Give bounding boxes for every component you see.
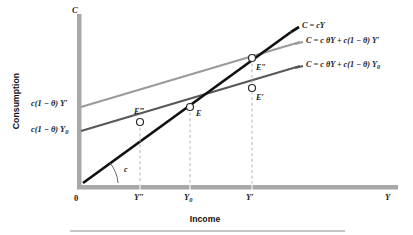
xtick-label-y0-subscript: 0 (189, 196, 192, 203)
point-marker-e-triple-prime (137, 119, 144, 126)
x-axis (77, 185, 398, 190)
series-label-permanent-high: C = c θY + c(1 − θ) Y′ (306, 37, 379, 45)
series-label-permanent-high-text: C = c θY + c(1 − θ) Y (306, 36, 377, 45)
series-line-permanent-base (81, 66, 300, 131)
angle-arc (110, 163, 118, 183)
point-marker-e-prime (249, 85, 256, 92)
point-marker-e-double-prime (249, 55, 256, 62)
point-label-e-double-prime: E″ (256, 64, 266, 72)
xtick-label-origin: 0 (74, 194, 78, 203)
series-label-permanent-high-prime: ′ (377, 36, 379, 45)
xtick-label-y0: Y0 (184, 193, 192, 203)
x-axis-title: Income (150, 214, 260, 224)
intercept-label-high: c(1 − θ) Y′ (31, 100, 68, 108)
point-label-e-prime: E′ (256, 94, 264, 102)
series-label-45deg: C = cY (302, 22, 325, 30)
point-label-e: E (196, 110, 201, 118)
xtick-label-ydoubleprime-prime: ″ (139, 192, 144, 202)
point-marker-e (187, 104, 194, 111)
x-axis-symbol: Y (385, 193, 390, 202)
series-label-permanent-base-subscript: 0 (377, 63, 380, 70)
y-axis-symbol: C (72, 6, 78, 15)
xtick-label-ydoubleprime: Y″ (134, 193, 144, 202)
intercept-label-high-text: c(1 − θ) Y (31, 99, 65, 108)
xtick-label-yprime-prime: ′ (251, 192, 253, 202)
consumption-function-figure: C Y C = cY C = c θY + c(1 − θ) Y′ C = c … (0, 0, 413, 235)
intercept-label-base-text: c(1 − θ) Y (31, 125, 65, 134)
y-axis-title: Consumption (11, 61, 21, 141)
intercept-label-base-subscript: 0 (65, 128, 68, 135)
series-label-permanent-base-text: C = c θY + c(1 − θ) Y (306, 60, 377, 69)
point-label-e-triple-prime: E‴ (134, 108, 144, 116)
y-axis (77, 14, 82, 189)
intercept-label-high-prime: ′ (65, 99, 67, 108)
series-label-permanent-base: C = c θY + c(1 − θ) Y0 (306, 61, 380, 70)
series-line-permanent-high (81, 42, 300, 107)
intercept-label-base: c(1 − θ) Y0 (31, 126, 68, 135)
xtick-label-yprime: Y′ (246, 193, 254, 202)
leader-eq1 (291, 27, 299, 32)
angle-label-c: c (124, 166, 128, 174)
